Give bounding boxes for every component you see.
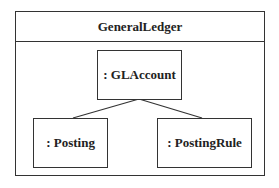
link-glaccount-postingrule [139,99,202,118]
object-postingrule: : PostingRule [157,118,252,168]
object-posting: : Posting [33,118,108,168]
object-glaccount: : GLAccount [97,50,182,100]
link-glaccount-posting [73,99,139,118]
